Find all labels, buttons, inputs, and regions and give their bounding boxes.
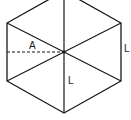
apothem-label: A <box>29 40 36 51</box>
radius-label: L <box>68 75 74 86</box>
spoke-lower-left <box>7 52 64 81</box>
hexagon-diagram: A L L <box>0 0 131 120</box>
spoke-upper-right <box>64 23 121 52</box>
side-label: L <box>124 43 130 54</box>
center-point <box>62 50 65 53</box>
hexagon-svg: A L L <box>0 0 131 120</box>
